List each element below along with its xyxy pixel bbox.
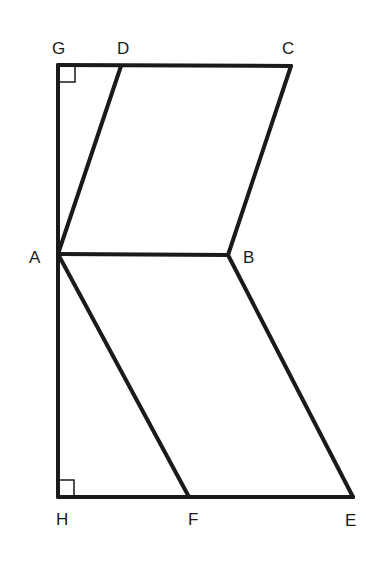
segment-GC — [58, 65, 291, 66]
label-E: E — [345, 512, 356, 529]
segment-BC — [228, 66, 291, 255]
label-D: D — [117, 40, 129, 57]
label-A: A — [29, 249, 40, 266]
segment-AD — [58, 66, 121, 254]
segment-AB — [58, 254, 228, 255]
label-B: B — [243, 249, 254, 266]
right-angle-mark-H — [60, 480, 74, 495]
label-F: F — [188, 511, 198, 528]
segment-AF — [58, 254, 189, 497]
right-angle-mark-G — [60, 67, 75, 82]
label-H: H — [56, 511, 68, 528]
segment-BE — [228, 255, 353, 497]
geometry-figure — [0, 0, 368, 563]
label-C: C — [282, 40, 294, 57]
label-G: G — [52, 40, 65, 57]
